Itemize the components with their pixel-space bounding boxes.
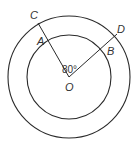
label-c: C: [30, 9, 38, 21]
label-a: A: [36, 35, 44, 47]
label-o: O: [65, 81, 74, 93]
label-b: B: [107, 45, 114, 57]
concentric-circles-diagram: C A D B 80° O: [0, 0, 137, 148]
angle-label: 80°: [62, 64, 77, 75]
label-d: D: [117, 23, 125, 35]
